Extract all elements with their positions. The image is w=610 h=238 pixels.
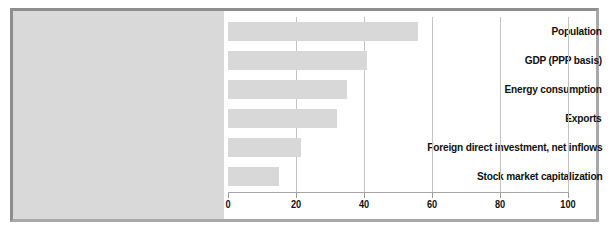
x-tick-label-0: 0 [210,199,247,210]
category-label-panel [13,11,224,219]
x-tick-label-60: 60 [414,199,451,210]
category-label-fdi-net-inflows: Foreign direct investment, net inflows [427,138,602,157]
x-tick-mark-20 [296,193,297,198]
x-tick-label-40: 40 [346,199,383,210]
x-tick-mark-0 [228,193,229,198]
gridline-60 [432,17,433,193]
x-axis-line [228,192,569,193]
x-tick-mark-60 [432,193,433,198]
x-tick-label-20: 20 [278,199,315,210]
category-label-energy-consumption: Energy consumption [505,80,602,99]
category-label-gdp-ppp-basis: GDP (PPP basis) [525,51,602,70]
category-label-stock-market-capitalization: Stock market capitalization [476,167,602,186]
gridline-40 [364,17,365,193]
gridline-20 [296,17,297,193]
chart-figure: Population GDP (PPP basis) Energy consum… [0,0,610,238]
x-tick-mark-40 [364,193,365,198]
x-tick-label-100: 100 [550,199,587,210]
x-tick-mark-100 [568,193,569,198]
gridline-100 [568,17,569,193]
plot-area [224,11,596,219]
x-tick-mark-80 [500,193,501,198]
x-tick-label-80: 80 [482,199,519,210]
category-label-exports: Exports [566,109,602,128]
gridline-80 [500,17,501,193]
category-label-population: Population [552,22,602,41]
